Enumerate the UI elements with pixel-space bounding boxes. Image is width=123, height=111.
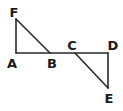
segment-ce [75, 53, 108, 88]
label-b: B [47, 56, 57, 71]
label-e: E [105, 91, 114, 106]
label-d: D [108, 38, 119, 53]
label-c: C [67, 38, 77, 53]
segment-fb [16, 19, 50, 53]
geometry-diagram: F A B C D E [0, 0, 123, 111]
label-f: F [10, 5, 19, 20]
label-a: A [7, 56, 17, 71]
